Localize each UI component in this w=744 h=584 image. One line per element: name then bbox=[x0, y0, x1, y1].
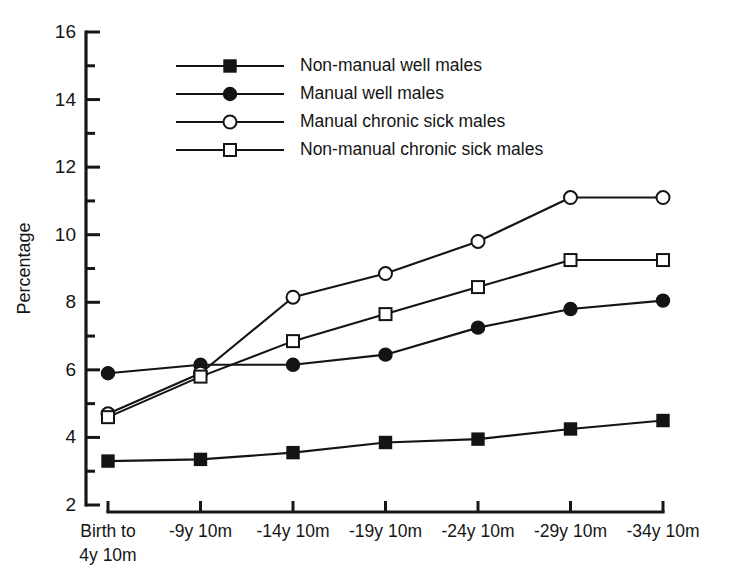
series-plot-area bbox=[102, 191, 670, 467]
x-tick-label: -34y 10m bbox=[627, 521, 700, 541]
data-point-marker bbox=[102, 411, 114, 423]
y-tick-label: 4 bbox=[65, 426, 76, 447]
legend-item-label: Manual well males bbox=[300, 83, 444, 103]
y-tick-label: 10 bbox=[55, 224, 76, 245]
data-point-marker bbox=[195, 371, 207, 383]
data-point-marker bbox=[102, 455, 114, 467]
x-axis: Birth to4y 10m-9y 10m-14y 10m-19y 10m-24… bbox=[79, 501, 699, 565]
y-tick-label: 6 bbox=[65, 359, 76, 380]
y-axis-title: Percentage bbox=[14, 222, 34, 314]
data-point-marker bbox=[657, 294, 670, 307]
data-point-marker bbox=[102, 367, 115, 380]
data-point-marker bbox=[472, 433, 484, 445]
data-point-marker bbox=[564, 303, 577, 316]
legend-item[interactable]: Non-manual chronic sick males bbox=[176, 139, 543, 159]
y-tick-label: 12 bbox=[55, 156, 76, 177]
legend-item[interactable]: Manual chronic sick males bbox=[176, 111, 505, 131]
y-axis-label: Percentage bbox=[14, 222, 34, 314]
y-axis: 246810121416 bbox=[55, 21, 100, 515]
data-point-marker bbox=[224, 88, 237, 101]
chart-series bbox=[102, 191, 670, 420]
series-line bbox=[108, 260, 663, 417]
data-point-marker bbox=[224, 60, 236, 72]
legend-item-label: Non-manual chronic sick males bbox=[300, 139, 543, 159]
data-point-marker bbox=[287, 291, 300, 304]
data-point-marker bbox=[657, 415, 669, 427]
data-point-marker bbox=[657, 191, 670, 204]
data-point-marker bbox=[380, 308, 392, 320]
line-chart: 246810121416 Birth to4y 10m-9y 10m-14y 1… bbox=[0, 0, 744, 584]
x-tick-label: -24y 10m bbox=[442, 521, 515, 541]
y-tick-label: 14 bbox=[55, 89, 77, 110]
chart-series bbox=[102, 294, 670, 380]
y-tick-label: 8 bbox=[65, 291, 76, 312]
x-tick-label: -9y 10m bbox=[169, 521, 232, 541]
chart-series bbox=[102, 415, 669, 468]
data-point-marker bbox=[195, 453, 207, 465]
data-point-marker bbox=[565, 254, 577, 266]
data-point-marker bbox=[287, 335, 299, 347]
data-point-marker bbox=[472, 281, 484, 293]
legend-item-label: Manual chronic sick males bbox=[300, 111, 505, 131]
data-point-marker bbox=[224, 144, 236, 156]
legend-item[interactable]: Non-manual well males bbox=[176, 55, 482, 75]
data-point-marker bbox=[287, 447, 299, 459]
data-point-marker bbox=[472, 321, 485, 334]
data-point-marker bbox=[564, 191, 577, 204]
y-tick-label: 2 bbox=[65, 494, 76, 515]
data-point-marker bbox=[380, 436, 392, 448]
chart-container: 246810121416 Birth to4y 10m-9y 10m-14y 1… bbox=[0, 0, 744, 584]
x-tick-label: -29y 10m bbox=[534, 521, 607, 541]
data-point-marker bbox=[565, 423, 577, 435]
data-point-marker bbox=[379, 267, 392, 280]
legend-item[interactable]: Manual well males bbox=[176, 83, 444, 103]
data-point-marker bbox=[657, 254, 669, 266]
data-point-marker bbox=[379, 348, 392, 361]
data-point-marker bbox=[224, 116, 237, 129]
x-tick-label: Birth to4y 10m bbox=[79, 521, 136, 565]
x-tick-label: -14y 10m bbox=[257, 521, 330, 541]
chart-legend: Non-manual well malesManual well malesMa… bbox=[176, 55, 543, 159]
data-point-marker bbox=[472, 235, 485, 248]
legend-item-label: Non-manual well males bbox=[300, 55, 482, 75]
x-tick-label: -19y 10m bbox=[349, 521, 422, 541]
data-point-marker bbox=[287, 358, 300, 371]
y-tick-label: 16 bbox=[55, 21, 76, 42]
